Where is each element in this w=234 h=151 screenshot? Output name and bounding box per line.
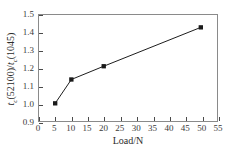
y-axis-tick-label: 1.2 <box>12 64 34 73</box>
x-axis-tick-label: 45 <box>181 124 190 133</box>
data-point-marker <box>102 64 106 68</box>
x-axis-tick <box>154 117 155 121</box>
x-axis-tick-label: 30 <box>132 124 141 133</box>
y-axis-tick <box>39 87 43 88</box>
y-axis-tick-label: 1.1 <box>12 82 34 91</box>
y-axis-tick <box>39 15 43 16</box>
data-point-marker <box>69 77 73 81</box>
data-series-layer <box>39 15 217 121</box>
y-axis-tick <box>39 33 43 34</box>
x-axis-tick-label: 25 <box>115 124 124 133</box>
x-axis-tick <box>88 117 89 121</box>
x-axis-tick <box>72 117 73 121</box>
y-axis-tick-labels: 0.91.01.11.21.31.41.5 <box>12 0 34 151</box>
x-axis-tick-label: 5 <box>52 124 57 133</box>
x-axis-tick <box>137 117 138 121</box>
x-axis-tick <box>219 117 220 121</box>
x-axis-tick <box>203 117 204 121</box>
y-axis-tick <box>39 69 43 70</box>
series-line <box>55 27 201 103</box>
x-axis-tick <box>104 117 105 121</box>
chart-figure: tc(52100)/tc(1045) 0.91.01.11.21.31.41.5… <box>0 0 234 151</box>
x-axis-tick <box>55 117 56 121</box>
x-axis-tick <box>186 117 187 121</box>
x-axis-tick-label: 50 <box>197 124 206 133</box>
x-axis-tick-label: 0 <box>36 124 41 133</box>
plot-frame <box>38 14 218 122</box>
x-axis-tick <box>170 117 171 121</box>
plot-area <box>39 15 217 121</box>
x-axis-tick-label: 20 <box>99 124 108 133</box>
y-axis-tick-label: 0.9 <box>12 118 34 127</box>
x-axis-tick-label: 10 <box>66 124 75 133</box>
y-axis-tick-label: 1.4 <box>12 28 34 37</box>
x-axis-tick-label: 15 <box>83 124 92 133</box>
x-axis-tick-label: 40 <box>164 124 173 133</box>
y-axis-tick-label: 1.5 <box>12 10 34 19</box>
y-axis-tick <box>39 51 43 52</box>
x-axis-title: Load/N <box>38 135 218 146</box>
data-point-marker <box>199 25 203 29</box>
y-axis-tick <box>39 123 43 124</box>
y-axis-tick-label: 1.0 <box>12 100 34 109</box>
x-axis-tick <box>121 117 122 121</box>
x-axis-tick-label: 55 <box>214 124 223 133</box>
x-axis-tick <box>39 117 40 121</box>
data-point-marker <box>53 101 57 105</box>
y-axis-tick <box>39 105 43 106</box>
y-axis-tick-label: 1.3 <box>12 46 34 55</box>
x-axis-tick-label: 35 <box>148 124 157 133</box>
